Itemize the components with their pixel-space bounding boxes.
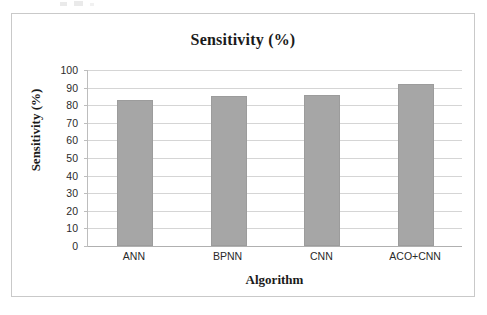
- y-tick-label: 40: [66, 170, 78, 182]
- bar-aco-cnn: [398, 84, 434, 246]
- y-tick-label: 10: [66, 222, 78, 234]
- bar-cnn: [304, 95, 340, 246]
- x-tick-label: ANN: [123, 250, 145, 262]
- bar-bpnn: [211, 96, 247, 246]
- y-tick-label: 30: [66, 187, 78, 199]
- scan-artifact: [60, 2, 67, 6]
- scan-artifact: [90, 3, 94, 6]
- chart-figure-frame: Sensitivity (%) Sensitivity (%) 10090807…: [11, 13, 475, 297]
- y-tick-label: 100: [60, 64, 78, 76]
- x-tick-label: ACO+CNN: [389, 250, 441, 262]
- x-axis-title: Algorithm: [87, 272, 462, 288]
- chart-title: Sensitivity (%): [12, 31, 474, 49]
- y-axis-tick-labels: 1009080706050403020100: [48, 70, 78, 246]
- x-tick-label: BPNN: [213, 250, 242, 262]
- axis-baseline: [88, 246, 462, 247]
- y-tick-label: 50: [66, 152, 78, 164]
- y-tick-mark: [84, 246, 88, 247]
- y-tick-label: 90: [66, 82, 78, 94]
- y-tick-label: 20: [66, 205, 78, 217]
- scan-artifact: [74, 1, 83, 6]
- y-tick-label: 60: [66, 134, 78, 146]
- x-tick-label: CNN: [310, 250, 333, 262]
- y-tick-label: 0: [72, 240, 78, 252]
- plot-area: [87, 70, 462, 246]
- y-axis-title: Sensitivity (%): [28, 70, 44, 190]
- bar-ann: [117, 100, 153, 246]
- bar-series: [88, 70, 462, 246]
- y-tick-label: 80: [66, 99, 78, 111]
- x-axis-tick-labels: ANNBPNNCNNACO+CNN: [87, 250, 462, 266]
- y-tick-label: 70: [66, 117, 78, 129]
